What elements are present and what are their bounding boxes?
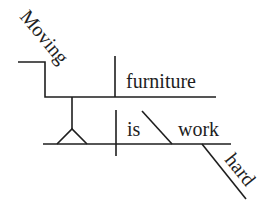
complement-slant-line (142, 111, 172, 144)
word-hard: hard (221, 149, 260, 190)
sentence-diagram: Moving furniture is work hard (0, 0, 272, 212)
word-furniture: furniture (126, 70, 196, 92)
word-is: is (127, 118, 141, 140)
pedestal-legs (57, 129, 87, 144)
word-moving: Moving (15, 5, 73, 68)
word-work: work (178, 118, 219, 140)
